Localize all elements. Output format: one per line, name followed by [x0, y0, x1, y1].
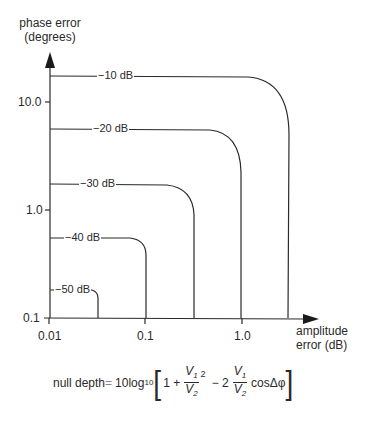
v2-subscript: 2 — [242, 390, 246, 399]
x-axis-title: amplitude error (dB) — [296, 324, 348, 352]
y-tick-label-1: 1.0 — [26, 204, 43, 216]
curve-label-minus-40db: −40 dB — [64, 232, 101, 243]
x-tick-label-1: 1.0 — [234, 330, 251, 342]
formula-minus-two: − 2 — [212, 376, 229, 390]
v1-subscript: 1 — [193, 371, 197, 380]
formula-lhs: null depth — [53, 376, 105, 390]
formula-square: 2 — [201, 369, 206, 379]
x-axis-arrow-icon — [303, 314, 319, 324]
x-tick-label-01: 0.1 — [137, 330, 154, 342]
v2-subscript: 2 — [193, 390, 197, 399]
curve-minus-10db — [50, 76, 289, 318]
v2-symbol: V — [185, 382, 193, 396]
curve-label-minus-30db: −30 dB — [79, 178, 116, 189]
y-axis-title: phase error (degrees) — [18, 16, 82, 44]
y-tick-label-01: 0.1 — [23, 312, 40, 324]
y-axis-title-line1: phase error — [18, 16, 82, 30]
curve-minus-30db — [50, 184, 194, 318]
right-bracket-icon: ] — [286, 366, 294, 400]
formula-cos-term: cosΔφ — [251, 376, 285, 390]
v1-subscript: 1 — [242, 371, 246, 380]
curve-label-minus-20db: −20 dB — [92, 123, 129, 134]
v2-symbol: V — [234, 382, 242, 396]
formula-log-base: 10 — [144, 378, 153, 387]
fraction-v1-v2-second: V1 V2 — [233, 365, 247, 401]
v1-symbol: V — [234, 364, 242, 378]
curve-label-minus-50db: −50 dB — [54, 284, 91, 295]
y-axis-arrow-icon — [45, 52, 55, 68]
fraction-v1-v2: V1 V2 — [184, 365, 198, 401]
y-tick-label-10: 10.0 — [18, 96, 41, 108]
formula-one-plus: 1 + — [163, 376, 180, 390]
curve-label-minus-10db: −10 dB — [97, 70, 134, 81]
y-axis-title-line2: (degrees) — [18, 30, 82, 44]
formula-coef: 10log — [115, 376, 144, 390]
formula-equals: = — [105, 376, 112, 390]
x-tick-label-001: 0.01 — [38, 330, 61, 342]
x-axis-title-line2: error (dB) — [296, 338, 348, 352]
v1-symbol: V — [185, 364, 193, 378]
left-bracket-icon: [ — [153, 366, 161, 400]
diagram-canvas — [0, 0, 373, 423]
x-axis-title-line1: amplitude — [296, 324, 348, 338]
x-axis-line — [44, 318, 308, 319]
null-depth-formula: null depth = 10log10 [ 1 + V1 V2 2 − 2 V… — [53, 365, 293, 401]
